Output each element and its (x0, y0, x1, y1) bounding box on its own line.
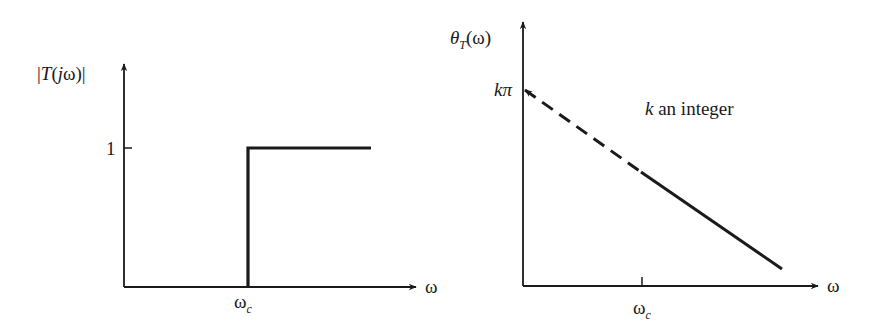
omega-arg: (ω) (466, 27, 491, 48)
subscript-T: T (459, 38, 466, 52)
left-x-tick-label-wc: ωc (234, 292, 252, 311)
subscript-c: c (646, 308, 651, 322)
pi-symbol: π (502, 79, 512, 100)
figure-canvas (0, 0, 877, 335)
left-x-axis-label: ω (425, 277, 438, 296)
right-plot (523, 22, 818, 286)
right-x-tick-label-wc: ωc (633, 298, 651, 317)
abs-close: )| (76, 63, 86, 84)
phase-dashed-segment (525, 90, 641, 172)
omega-symbol: ω (633, 297, 646, 318)
left-plot (124, 64, 416, 287)
left-y-axis-label: |T(jω)| (37, 64, 86, 83)
right-x-axis-label: ω (827, 276, 840, 295)
phase-solid-segment (641, 172, 782, 269)
magnitude-step-curve (248, 148, 371, 287)
omega-symbol: ω (234, 291, 247, 312)
annotation-k-integer: k an integer (645, 99, 734, 118)
subscript-c: c (247, 302, 252, 316)
right-y-tick-label-kpi: kπ (494, 80, 512, 99)
left-y-tick-label: 1 (106, 139, 116, 158)
theta-symbol: θ (450, 27, 459, 48)
annotation-text: an integer (653, 98, 733, 119)
right-y-axis-label: θT(ω) (450, 28, 491, 47)
omega-symbol: ω (63, 63, 76, 84)
T-symbol: T (41, 63, 52, 84)
